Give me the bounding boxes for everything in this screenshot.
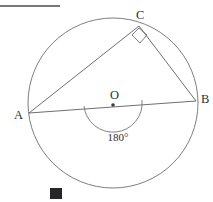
geometry-diagram-canvas: A B C O 180° (0, 0, 213, 202)
segment-ab (29, 101, 196, 113)
geometry-figure-root: A B C O 180° (0, 0, 213, 202)
segment-ac (29, 26, 139, 113)
vertex-label-b: B (201, 92, 209, 106)
vertex-label-c: C (136, 8, 144, 22)
vertex-label-a: A (14, 108, 23, 122)
bottom-solid-square-marker (50, 188, 62, 199)
center-dot-o (111, 103, 115, 107)
angle-measure-label-180: 180° (108, 131, 129, 143)
center-label-o: O (110, 88, 119, 102)
